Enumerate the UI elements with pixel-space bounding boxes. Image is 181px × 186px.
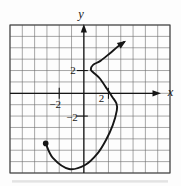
y-axis-label: y <box>76 7 84 21</box>
textbook-figure-page: −222−2xy <box>0 0 181 186</box>
y-tick-label: −2 <box>66 111 78 123</box>
x-axis-arrowhead <box>153 90 162 96</box>
axes <box>10 24 161 173</box>
scan-shadow <box>12 180 168 182</box>
x-tick-label: −2 <box>49 98 61 110</box>
y-tick-label: 2 <box>70 64 76 76</box>
x-tick-label: 2 <box>99 92 105 104</box>
axis-labels: −222−2xy <box>49 7 173 123</box>
grid <box>10 25 170 173</box>
grid-border <box>10 25 170 173</box>
curve-start-dot <box>43 141 49 147</box>
scan-artifacts <box>12 180 168 182</box>
x-axis-label: x <box>167 85 174 99</box>
oriented-curve-graph: −222−2xy <box>0 0 181 186</box>
